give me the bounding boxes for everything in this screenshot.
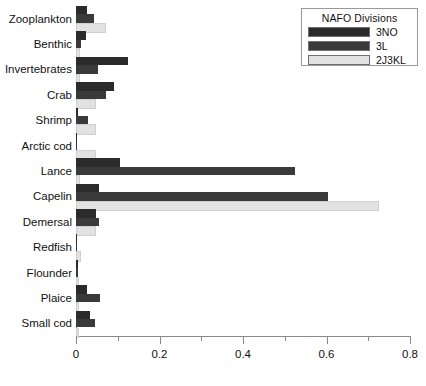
legend: NAFO Divisions 3NO3L2J3KL — [301, 8, 418, 66]
legend-title: NAFO Divisions — [302, 12, 417, 24]
bar-3l — [76, 116, 88, 124]
bar-group — [76, 82, 410, 107]
bar-3l — [76, 14, 94, 22]
x-axis-label: 0.6 — [307, 348, 347, 360]
x-axis-label: 0.2 — [140, 348, 180, 360]
bar-3no — [76, 311, 90, 319]
y-axis-label: Small cod — [0, 317, 72, 329]
legend-label: 3NO — [376, 26, 398, 38]
y-axis-label: Invertebrates — [0, 63, 72, 75]
legend-swatch — [308, 55, 370, 65]
bar-3no — [76, 82, 114, 90]
x-axis-label: 0.4 — [223, 348, 263, 360]
legend-entry: 3NO — [302, 25, 417, 38]
bar-3l — [76, 319, 95, 327]
bar-3l — [76, 91, 106, 99]
bar-3no — [76, 6, 87, 14]
legend-swatch — [308, 41, 370, 51]
bar-group — [76, 184, 410, 209]
bar-group — [76, 234, 410, 259]
y-axis-label: Benthic — [0, 38, 72, 50]
bar-3l — [76, 65, 98, 73]
legend-entries: 3NO3L2J3KL — [302, 25, 417, 66]
bar-3no — [76, 108, 78, 116]
x-tick-minor — [118, 336, 119, 341]
bar-3no — [76, 133, 77, 141]
y-axis-label: Redfish — [0, 241, 72, 253]
y-axis-label: Flounder — [0, 267, 72, 279]
legend-label: 3L — [376, 40, 388, 52]
y-axis-label: Lance — [0, 165, 72, 177]
bar-3l — [76, 243, 77, 251]
bar-3no — [76, 209, 96, 217]
bar-chart: ZooplanktonBenthicInvertebratesCrabShrim… — [0, 0, 426, 386]
bar-group — [76, 260, 410, 285]
y-axis-label: Demersal — [0, 216, 72, 228]
bar-3l — [76, 268, 78, 276]
y-axis-label: Shrimp — [0, 114, 72, 126]
y-axis-label: Capelin — [0, 190, 72, 202]
legend-entry: 2J3KL — [302, 53, 417, 66]
bar-3l — [76, 192, 328, 200]
bar-3no — [76, 184, 99, 192]
bar-group — [76, 209, 410, 234]
bar-3no — [76, 57, 128, 65]
bar-3no — [76, 31, 86, 39]
x-tick-major — [160, 336, 161, 344]
bar-group — [76, 311, 410, 336]
x-tick-major — [76, 336, 77, 344]
x-axis-label: 0 — [56, 348, 96, 360]
bar-3l — [76, 141, 77, 149]
x-tick-major — [327, 336, 328, 344]
bar-3no — [76, 158, 120, 166]
x-tick-major — [410, 336, 411, 344]
bar-3l — [76, 40, 81, 48]
y-axis-label: Zooplankton — [0, 13, 72, 25]
bar-group — [76, 133, 410, 158]
bar-group — [76, 158, 410, 183]
x-tick-major — [243, 336, 244, 344]
y-axis-label: Arctic cod — [0, 140, 72, 152]
x-tick-minor — [285, 336, 286, 341]
bar-group — [76, 108, 410, 133]
x-tick-minor — [368, 336, 369, 341]
bar-3l — [76, 294, 100, 302]
legend-label: 2J3KL — [376, 54, 406, 66]
legend-swatch — [308, 27, 370, 37]
bar-group — [76, 285, 410, 310]
bar-3no — [76, 234, 77, 242]
bar-3l — [76, 167, 295, 175]
y-axis-label: Crab — [0, 89, 72, 101]
x-axis-label: 0.8 — [390, 348, 426, 360]
bar-3no — [76, 285, 87, 293]
bar-3l — [76, 218, 99, 226]
bar-3no — [76, 260, 78, 268]
legend-entry: 3L — [302, 39, 417, 52]
x-tick-minor — [201, 336, 202, 341]
y-axis-label: Plaice — [0, 292, 72, 304]
